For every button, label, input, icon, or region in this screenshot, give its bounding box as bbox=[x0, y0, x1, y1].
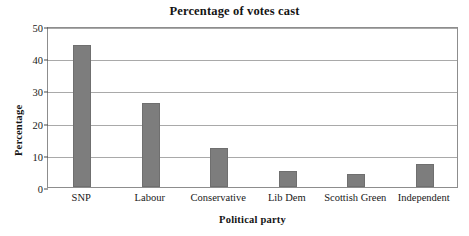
bar bbox=[279, 171, 297, 187]
bar-chart: Percentage of votes cast Percentage 0102… bbox=[0, 0, 469, 236]
y-axis-tick-mark bbox=[44, 189, 48, 190]
x-axis-tick-label: Independent bbox=[398, 192, 450, 203]
y-axis-tick-mark bbox=[44, 92, 48, 93]
bar bbox=[347, 174, 365, 187]
y-axis-tick-label: 20 bbox=[33, 119, 44, 130]
y-axis-tick-label: 30 bbox=[33, 87, 44, 98]
x-axis-tick-label: Labour bbox=[135, 192, 165, 203]
x-axis-tick-label: Conservative bbox=[191, 192, 246, 203]
bar bbox=[142, 103, 160, 187]
y-axis-tick-mark bbox=[44, 28, 48, 29]
y-axis-tick-label: 0 bbox=[38, 184, 43, 195]
gridline bbox=[48, 92, 457, 93]
gridline bbox=[48, 125, 457, 126]
x-axis-tick-label: Scottish Green bbox=[324, 192, 386, 203]
y-axis-title: Percentage bbox=[1, 76, 15, 156]
gridline bbox=[48, 60, 457, 61]
chart-title: Percentage of votes cast bbox=[0, 4, 469, 19]
y-axis-tick-label: 10 bbox=[33, 151, 44, 162]
bar bbox=[73, 45, 91, 187]
gridline bbox=[48, 28, 457, 29]
y-axis-title-text: Percentage bbox=[13, 105, 24, 156]
y-axis-tick-label: 50 bbox=[33, 23, 44, 34]
bar bbox=[416, 164, 434, 187]
bar bbox=[210, 148, 228, 187]
y-axis-tick-mark bbox=[44, 156, 48, 157]
plot-area: 01020304050 bbox=[47, 27, 458, 188]
y-axis-tick-label: 40 bbox=[33, 55, 44, 66]
gridline bbox=[48, 157, 457, 158]
y-axis-tick-mark bbox=[44, 60, 48, 61]
x-axis-tick-label: SNP bbox=[72, 192, 91, 203]
x-axis-tick-label: Lib Dem bbox=[268, 192, 306, 203]
y-axis-tick-mark bbox=[44, 124, 48, 125]
x-axis-title: Political party bbox=[47, 214, 458, 225]
